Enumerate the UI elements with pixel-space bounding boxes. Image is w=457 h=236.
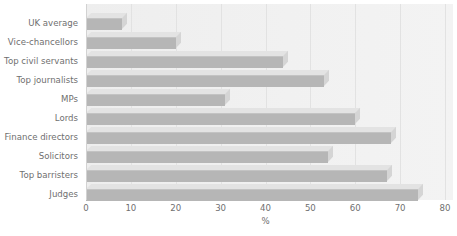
bar xyxy=(86,184,423,195)
x-tick-label: 30 xyxy=(201,202,241,214)
category-label: Finance directors xyxy=(0,132,78,142)
bar-front-face xyxy=(86,189,418,201)
x-tick-label: 40 xyxy=(246,202,286,214)
bar-front-face xyxy=(86,113,355,125)
category-label: Judges xyxy=(0,189,78,199)
category-axis-labels: UK averageVice-chancellorsTop civil serv… xyxy=(0,0,82,204)
x-tick-label: 80 xyxy=(425,202,457,214)
bar-front-face xyxy=(86,94,225,106)
plot-area xyxy=(86,4,453,200)
bar xyxy=(86,13,127,24)
bar-front-face xyxy=(86,75,324,87)
bar-chart: UK averageVice-chancellorsTop civil serv… xyxy=(0,0,457,236)
category-label: Top civil servants xyxy=(0,56,78,66)
x-axis-title: % xyxy=(0,216,457,226)
x-tick-label: 50 xyxy=(290,202,330,214)
bar-front-face xyxy=(86,170,387,182)
x-tick-label: 20 xyxy=(156,202,196,214)
bar xyxy=(86,108,360,119)
bar-front-face xyxy=(86,151,328,163)
bar-front-face xyxy=(86,18,122,30)
bar xyxy=(86,51,288,62)
category-label: UK average xyxy=(0,18,78,28)
bar-front-face xyxy=(86,132,391,144)
bar-front-face xyxy=(86,56,283,68)
x-tick-label: 0 xyxy=(66,202,106,214)
category-label: Top journalists xyxy=(0,75,78,85)
gridline-70 xyxy=(400,4,401,200)
gridline-80 xyxy=(445,4,446,200)
x-tick-label: 60 xyxy=(335,202,375,214)
bar xyxy=(86,146,333,157)
bar xyxy=(86,89,230,100)
category-label: Top barristers xyxy=(0,170,78,180)
bar xyxy=(86,32,181,43)
y-axis-line xyxy=(86,4,87,200)
bar xyxy=(86,165,392,176)
category-label: Lords xyxy=(0,113,78,123)
bar xyxy=(86,127,396,138)
category-label: MPs xyxy=(0,94,78,104)
x-tick-label: 10 xyxy=(111,202,151,214)
bar xyxy=(86,70,329,81)
category-label: Vice-chancellors xyxy=(0,37,78,47)
category-label: Solicitors xyxy=(0,151,78,161)
x-tick-label: 70 xyxy=(380,202,420,214)
x-axis-title-text: % xyxy=(261,216,269,226)
bar-front-face xyxy=(86,37,176,49)
